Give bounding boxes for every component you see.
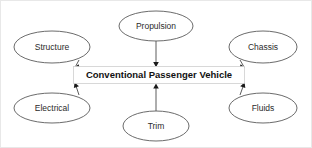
node-chassis-label: Chassis (248, 42, 278, 52)
node-structure[interactable]: Structure (14, 31, 90, 63)
node-propulsion[interactable]: Propulsion (119, 11, 193, 41)
node-fluids-label: Fluids (252, 103, 275, 113)
center-node-conventional-passenger-vehicle[interactable]: Conventional Passenger Vehicle (74, 67, 245, 84)
node-structure-label: Structure (35, 42, 70, 52)
edge-propulsion-to-center (153, 41, 159, 67)
edge-fluids-to-center (240, 83, 245, 95)
center-node-label: Conventional Passenger Vehicle (86, 69, 232, 80)
edge-trim-to-center (153, 83, 159, 111)
node-chassis[interactable]: Chassis (229, 31, 297, 63)
node-fluids[interactable]: Fluids (229, 93, 297, 123)
node-electrical[interactable]: Electrical (14, 93, 90, 123)
node-propulsion-label: Propulsion (136, 21, 176, 31)
node-trim-label: Trim (148, 121, 165, 131)
node-electrical-label: Electrical (35, 103, 70, 113)
edge-electrical-to-center (74, 83, 79, 95)
node-trim[interactable]: Trim (123, 111, 189, 141)
diagram-canvas: Conventional Passenger Vehicle Structure… (0, 0, 312, 148)
diagram-svg: Conventional Passenger Vehicle Structure… (1, 1, 312, 148)
arrowhead-icon (153, 83, 159, 88)
